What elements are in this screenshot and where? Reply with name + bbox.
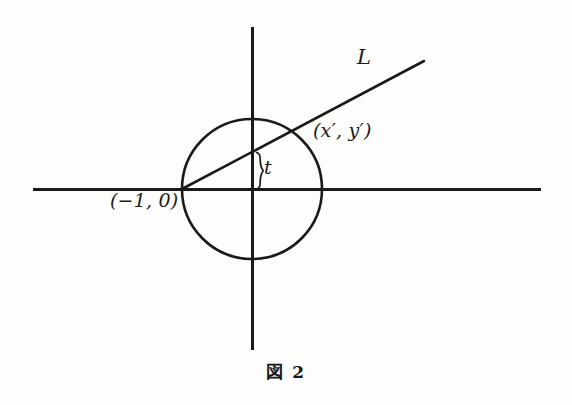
- brace-t: [257, 153, 264, 190]
- figure-drawing: [0, 0, 572, 405]
- figure-caption: 図 2: [0, 358, 572, 383]
- figure-container: L (x′, y′) (−1, 0) t 図 2: [0, 0, 572, 405]
- line-label-L: L: [357, 47, 371, 68]
- point-label-x-prime-y-prime: (x′, y′): [313, 121, 372, 140]
- point-label-minus-one-zero: (−1, 0): [110, 191, 178, 210]
- line-L: [182, 61, 424, 189]
- segment-label-t: t: [264, 158, 272, 177]
